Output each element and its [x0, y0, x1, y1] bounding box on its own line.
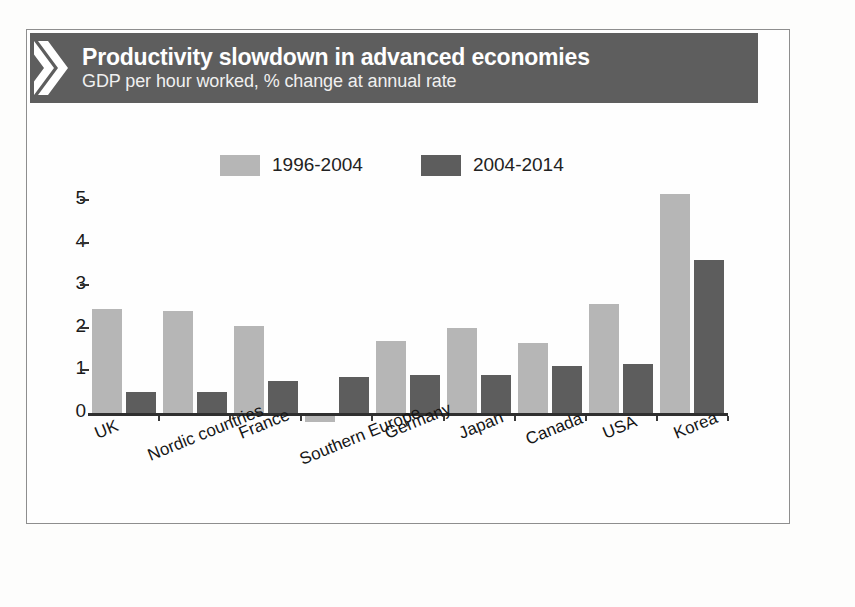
bar-japan-1996-2004 [447, 328, 477, 413]
bar-series-group [88, 112, 728, 424]
y-axis-tick-label: 5 [38, 187, 86, 209]
double-chevron-icon [34, 37, 76, 99]
x-axis-tick-mark [300, 416, 302, 421]
x-axis-tick-mark [229, 416, 231, 421]
bar-nordic-countries-2004-2014 [197, 392, 227, 413]
bar-southern-europe-2004-2014 [339, 377, 369, 413]
bar-japan-2004-2014 [481, 375, 511, 413]
bar-usa-1996-2004 [589, 304, 619, 413]
bar-nordic-countries-1996-2004 [163, 311, 193, 413]
y-axis-tick-label: 3 [38, 272, 86, 294]
bar-southern-europe-1996-2004 [305, 416, 335, 422]
bar-canada-1996-2004 [518, 343, 548, 413]
bar-korea-2004-2014 [694, 260, 724, 413]
x-axis-tick-mark [514, 416, 516, 421]
y-axis-tick-label: 4 [38, 230, 86, 252]
x-axis-tick-mark [371, 416, 373, 421]
y-axis-tick-label: 2 [38, 315, 86, 337]
chart-figure: Productivity slowdown in advanced econom… [0, 0, 855, 607]
chart-subtitle: GDP per hour worked, % change at annual … [82, 72, 590, 91]
bar-uk-1996-2004 [92, 309, 122, 413]
bar-korea-1996-2004 [660, 194, 690, 413]
y-axis-tick-label: 1 [38, 357, 86, 379]
x-axis-tick-mark [443, 416, 445, 421]
chart-header-band: Productivity slowdown in advanced econom… [30, 33, 758, 103]
x-axis-tick-mark [585, 416, 587, 421]
bar-usa-2004-2014 [623, 364, 653, 413]
x-axis-tick-mark [727, 416, 729, 421]
bar-france-1996-2004 [234, 326, 264, 413]
bar-uk-2004-2014 [126, 392, 156, 413]
x-axis-tick-mark [158, 416, 160, 421]
chart-title: Productivity slowdown in advanced econom… [82, 45, 590, 69]
bar-germany-1996-2004 [376, 341, 406, 413]
bar-canada-2004-2014 [552, 366, 582, 413]
x-axis-tick-mark [656, 416, 658, 421]
y-axis-tick-label: 0 [38, 400, 86, 422]
title-block: Productivity slowdown in advanced econom… [82, 45, 590, 90]
plot-area: 1996-2004 2004-2014 012345 UKNordic coun… [30, 112, 758, 520]
